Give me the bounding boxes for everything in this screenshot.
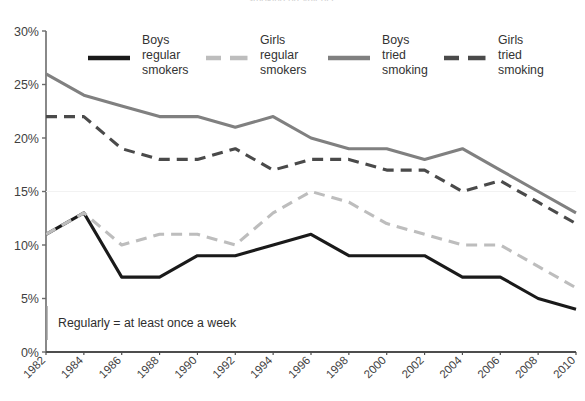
legend-label-0: Boys [142,33,169,47]
legend-label-0: smokers [142,63,188,77]
legend-label-1: smokers [260,63,306,77]
legend-label-3: tried [498,48,522,62]
x-axis-tick-label: 1998 [324,354,351,381]
line-chart-svg: 0%5%10%15%20%25%30% 19821984198619881990… [0,0,585,401]
legend-label-1: regular [260,48,298,62]
y-axis-tick-label: 20% [14,132,39,146]
series-line-3 [46,117,576,224]
y-axis-tick-label: 30% [14,25,39,39]
chart-legend: BoysregularsmokersGirlsregularsmokersBoy… [88,33,544,77]
x-axis-tick-label: 1994 [248,354,275,381]
x-axis-tick-label: 2008 [513,354,540,381]
x-axis-tick-label: 1990 [172,354,199,381]
y-axis-tick-label: 10% [14,239,39,253]
note-text: Regularly = at least once a week [58,316,237,330]
legend-label-0: regular [142,48,180,62]
chart-container: smoking prevalence 0%5%10%15%20%25%30% 1… [0,0,585,401]
y-axis-tick-label: 5% [21,292,39,306]
legend-label-2: smoking [382,63,428,77]
x-axis-tick-label: 2004 [437,354,464,381]
legend-label-3: Girls [498,33,523,47]
x-axis-tick-label: 1988 [134,354,161,381]
series-line-1 [46,192,576,288]
legend-label-2: tried [382,48,406,62]
x-axis-labels: 1982198419861988199019921994199619982000… [21,352,578,381]
axis-lines [46,31,576,352]
legend-label-3: smoking [498,63,544,77]
x-axis-tick-label: 2002 [399,354,426,381]
x-axis-tick-label: 1984 [59,354,86,381]
x-axis-tick-label: 1992 [210,354,237,381]
note-annotation: Regularly = at least once a week [47,306,237,340]
legend-label-1: Girls [260,33,285,47]
series-line-0 [46,213,576,309]
x-axis-tick-label: 1986 [97,354,124,381]
y-axis-tick-label: 25% [14,78,39,92]
y-axis-labels: 0%5%10%15%20%25%30% [14,25,46,360]
y-axis-tick-label: 15% [14,185,39,199]
legend-label-2: Boys [382,33,409,47]
x-axis-tick-label: 2006 [475,354,502,381]
x-axis-tick-label: 2000 [362,354,389,381]
x-axis-tick-label: 2010 [551,354,578,381]
x-axis-tick-label: 1996 [286,354,313,381]
